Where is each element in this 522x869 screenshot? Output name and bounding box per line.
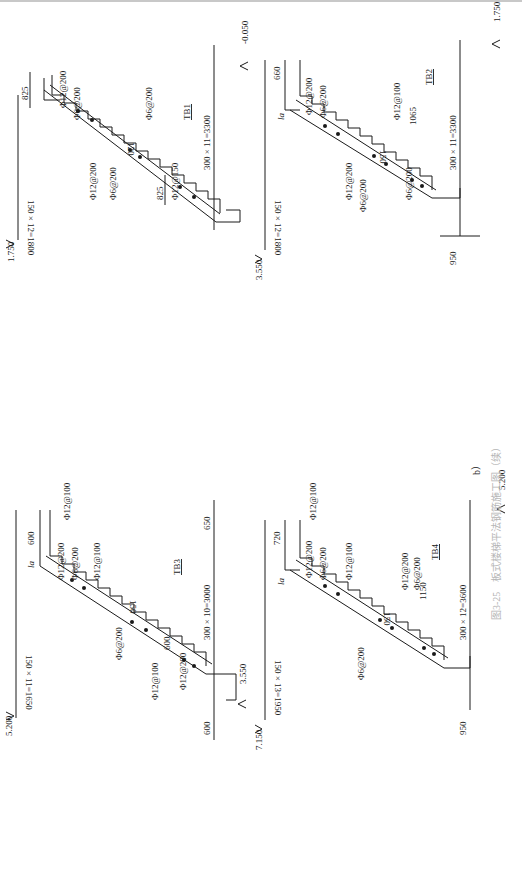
rebar-2: Φ12@200 [304, 540, 314, 578]
rebar-4: Φ12@100 [344, 542, 354, 580]
rise-dim: 150 × 13=1950 [273, 660, 283, 716]
run-dim: 300 × 11=3300 [448, 115, 458, 170]
stair-label: TB1 [182, 104, 192, 120]
landing-dim: 950 [458, 721, 468, 735]
rebar-6: Φ6@200 [358, 179, 368, 212]
stair-label: TB3 [172, 558, 182, 575]
rebar-1: Φ12@200 [304, 77, 314, 115]
drawing-page: 1.750 -0.050 150 × 12=1800 300 × 11=3300… [0, 0, 522, 869]
rebar-6: Φ12@200 [178, 652, 188, 690]
landing-dim-left: 650 [202, 516, 212, 530]
stair-rebar-drawing: 1.750 -0.050 150 × 12=1800 300 × 11=3300… [0, 0, 522, 869]
rebar-1: Φ12@100 [62, 482, 72, 520]
thickness: 120 [126, 142, 136, 156]
rebar-3: Φ12@100 [392, 82, 402, 120]
rebar-7: Φ12@100 [150, 662, 160, 700]
stair-label: TB2 [424, 69, 434, 85]
stair-TB2 [255, 40, 500, 263]
elev-high: -0.050 [240, 20, 250, 44]
rebar-4: Φ12@100 [92, 542, 102, 580]
thickness: 150 [382, 612, 392, 626]
rebar-5: Φ6@200 [108, 167, 118, 200]
rebar-2: Φ12@200 [56, 542, 66, 580]
end-dim-left: 720 [272, 531, 282, 545]
TB4-text: 7.150 5.200 150 × 13=1950 300 × 12=3600 … [254, 469, 507, 750]
end-dim-right: 600 [162, 636, 172, 650]
rise-dim: 150 × 11=1650 [24, 655, 34, 710]
rebar-5: Φ12@200 [344, 162, 354, 200]
rebar-2: Φ6@200 [72, 87, 82, 120]
end-dim-left: 660 [272, 66, 282, 80]
elev-low: 1.750 [6, 241, 16, 262]
rise-dim: 150 × 12=1800 [26, 200, 36, 256]
TB3-text: 5.200 3.550 150 × 11=1650 300 × 10=3000 … [4, 482, 248, 736]
rebar-2: Φ6@200 [318, 85, 328, 118]
landing-high [206, 674, 236, 700]
thickness: 150 [378, 150, 388, 164]
elevation-mark-high [238, 700, 246, 708]
figure-caption: 图3-25 板式楼梯平法钢筋施工图（续） [490, 442, 502, 620]
end-dim-right: 1065 [408, 107, 418, 126]
run-dim: 300 × 10=3000 [202, 584, 212, 640]
elevation-mark-high [240, 62, 248, 70]
elev-low: 5.200 [4, 715, 14, 736]
rebar-4: Φ12@150 [170, 162, 180, 200]
rebar-3: Φ6@200 [318, 547, 328, 580]
rebar-7: Φ6@200 [412, 557, 422, 590]
elev-low: 3.550 [254, 259, 264, 280]
beam-high [432, 188, 460, 198]
elev-high: 1.750 [492, 1, 502, 22]
figure-sub-label: b） [471, 460, 482, 475]
la-label: la [276, 577, 286, 585]
landing-low [285, 60, 300, 110]
top-border [0, 0, 522, 2]
TB2-text: 3.550 1.750 150 × 12=1800 300 × 11=3300 … [254, 1, 502, 280]
run-dim: 300 × 12=3600 [458, 584, 468, 640]
landing-dim: 950 [448, 251, 458, 265]
rebar-5: Φ6@200 [114, 627, 124, 660]
end-dim-left: 600 [26, 531, 36, 545]
run-dim: 300 × 11=3300 [202, 115, 212, 170]
stair-label: TB4 [430, 543, 440, 560]
rebar-1: Φ12@100 [308, 482, 318, 520]
end-dim-right: 825 [155, 186, 165, 200]
elev-high: 3.550 [238, 663, 248, 684]
landing-low [285, 520, 300, 570]
rebar-6: Φ12@200 [88, 162, 98, 200]
la-label: la [276, 112, 286, 120]
la-label: la [26, 560, 36, 568]
rebar-6: Φ12@200 [400, 552, 410, 590]
rebar-1: Φ12@200 [58, 70, 68, 108]
rebar-5: Φ6@200 [356, 647, 366, 680]
TB1-text: 1.750 -0.050 150 × 12=1800 300 × 11=3300… [6, 20, 250, 262]
elevation-mark-high [492, 40, 500, 48]
rise-dim: 150 × 12=1800 [273, 200, 283, 256]
end-dim-left: 825 [20, 86, 30, 100]
rebar-4: Φ6@200 [404, 167, 414, 200]
landing-dim-right: 600 [202, 721, 212, 735]
thickness: 150 [128, 600, 138, 614]
rebar-3: Φ6@200 [144, 87, 154, 120]
rebar-3: Φ6@200 [70, 547, 80, 580]
elev-low: 7.150 [254, 729, 264, 750]
